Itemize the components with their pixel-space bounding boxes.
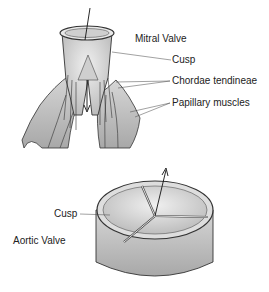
chordae-tendineae-label: Chordae tendineae	[172, 76, 257, 86]
papillary-muscles-label: Papillary muscles	[172, 98, 250, 108]
aortic-valve-drawing	[80, 168, 213, 276]
aortic-valve-title: Aortic Valve	[13, 236, 66, 246]
aortic-cusp-label: Cusp	[54, 209, 77, 219]
mitral-valve-drawing	[22, 8, 171, 148]
mitral-valve-title: Mitral Valve	[135, 34, 187, 44]
mitral-cusp-label: Cusp	[172, 55, 195, 65]
